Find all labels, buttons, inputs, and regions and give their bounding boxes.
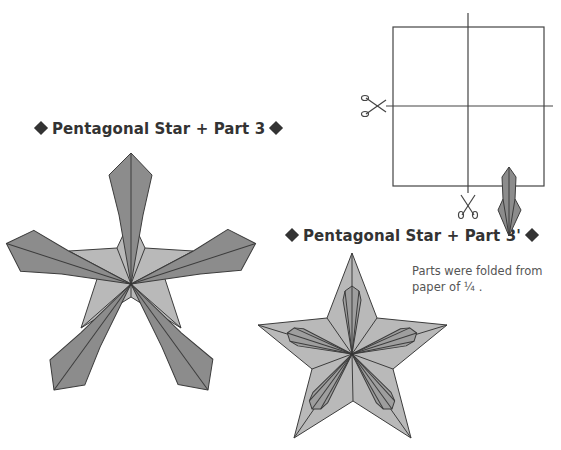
right-star (258, 253, 447, 438)
left-star-center (130, 283, 133, 286)
right-star-center (351, 353, 354, 356)
scissors-icon (459, 195, 478, 219)
cut-diagram (362, 13, 554, 236)
folded-part (498, 167, 521, 236)
left-star (0, 153, 262, 403)
scissors-icon (362, 96, 387, 117)
diagram-canvas (0, 0, 561, 450)
